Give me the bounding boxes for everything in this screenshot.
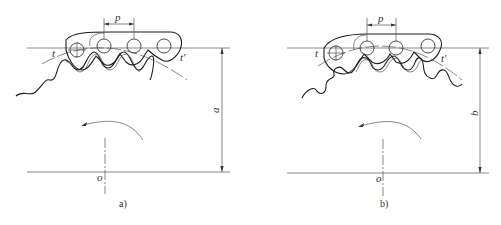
point-t-label: t: [52, 47, 56, 59]
panel-b: p t t' b o b): [287, 12, 489, 210]
point-t-label: t: [315, 47, 319, 59]
rotation-arrow-icon: [358, 123, 364, 127]
sprocket-tooth-profile: [356, 58, 422, 72]
chain-plates: [66, 32, 182, 70]
center-label: o: [97, 171, 103, 183]
chain-roller: [421, 39, 435, 53]
panel-caption: b): [380, 198, 388, 210]
rotation-arrow-icon: [81, 122, 87, 126]
center-label: o: [376, 172, 382, 184]
rotation-arc: [361, 122, 421, 139]
panel-caption: a): [119, 198, 127, 210]
pitch-label: p: [114, 11, 121, 23]
chain-roller: [157, 39, 171, 53]
distance-label: a: [209, 107, 221, 113]
point-t-prime-label: t': [441, 52, 447, 64]
pitch-label: p: [377, 12, 384, 24]
sprocket-teeth: [16, 52, 154, 96]
chain-roller: [97, 39, 111, 53]
rotation-arc: [84, 121, 143, 140]
point-t-prime-label: t': [180, 51, 186, 63]
distance-label: b: [468, 110, 480, 116]
panel-a: p t t' a o a): [16, 11, 230, 210]
chain-roller: [127, 39, 141, 53]
chain-sprocket-figure: p t t' a o a): [0, 0, 501, 225]
